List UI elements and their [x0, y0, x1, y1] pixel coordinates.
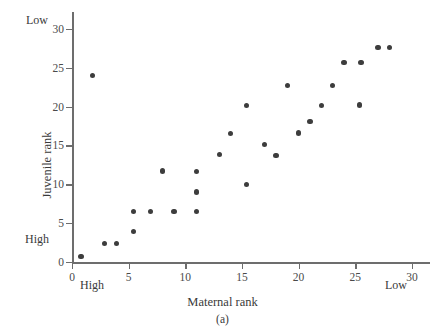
y-tick-label: 25 — [53, 62, 65, 74]
x-tick-mark — [129, 262, 130, 269]
y-tick-mark — [66, 29, 73, 30]
x-tick-mark — [242, 262, 243, 269]
data-point — [244, 103, 249, 108]
x-axis-high-annotation: High — [80, 278, 104, 293]
x-tick-label: 10 — [180, 271, 192, 283]
x-tick-label: 15 — [236, 271, 248, 283]
data-point — [131, 229, 136, 234]
y-tick-label: 10 — [53, 178, 65, 190]
y-tick-mark — [66, 145, 73, 146]
data-point — [357, 102, 362, 107]
data-point — [131, 209, 136, 214]
data-point — [285, 83, 290, 88]
plot-area: 051015202530 051015202530 — [72, 21, 421, 262]
data-point — [387, 45, 392, 50]
y-tick-mark — [66, 184, 73, 185]
x-tick-label: 30 — [406, 271, 418, 283]
x-tick-mark — [355, 262, 356, 269]
data-point — [102, 241, 107, 246]
data-point — [296, 130, 301, 135]
x-tick-mark — [185, 262, 186, 269]
data-point — [171, 209, 176, 214]
x-axis-line — [72, 262, 430, 264]
data-point — [194, 209, 199, 214]
data-point — [194, 169, 199, 174]
y-axis-line — [72, 12, 74, 263]
data-point — [358, 60, 363, 65]
data-point — [307, 119, 312, 124]
panel-caption: (a) — [0, 313, 445, 325]
y-tick-label: 30 — [53, 23, 65, 35]
x-tick-label: 25 — [350, 271, 362, 283]
y-tick-mark — [66, 107, 73, 108]
y-tick-label: 5 — [58, 217, 64, 229]
x-axis-title: Maternal rank — [0, 295, 445, 310]
y-axis-low-annotation: Low — [26, 13, 48, 28]
data-point — [330, 83, 335, 88]
y-tick-label: 20 — [53, 101, 65, 113]
scatter-plot-figure: Juvenile rank Low High 051015202530 0510… — [0, 0, 445, 330]
data-point — [273, 153, 278, 158]
data-point — [217, 152, 222, 157]
data-point — [341, 60, 346, 65]
data-point — [228, 131, 233, 136]
data-point — [114, 241, 119, 246]
x-tick-label: 20 — [293, 271, 305, 283]
x-tick-mark — [299, 262, 300, 269]
data-point — [160, 168, 165, 173]
data-point — [244, 182, 249, 187]
x-tick-label: 5 — [126, 271, 132, 283]
data-point — [319, 103, 324, 108]
data-point — [90, 73, 95, 78]
y-tick-mark — [66, 68, 73, 69]
y-tick-mark — [66, 223, 73, 224]
data-point — [262, 142, 267, 147]
data-point — [148, 209, 153, 214]
x-tick-label: 0 — [69, 271, 75, 283]
x-axis-low-annotation: Low — [385, 278, 407, 293]
y-tick-label: 15 — [53, 139, 65, 151]
data-point — [78, 254, 83, 259]
data-point — [194, 189, 199, 194]
x-tick-mark — [412, 262, 413, 269]
data-point — [375, 45, 380, 50]
y-tick-label: 0 — [58, 256, 64, 268]
y-axis-high-annotation: High — [25, 232, 49, 247]
x-tick-mark — [72, 262, 73, 269]
